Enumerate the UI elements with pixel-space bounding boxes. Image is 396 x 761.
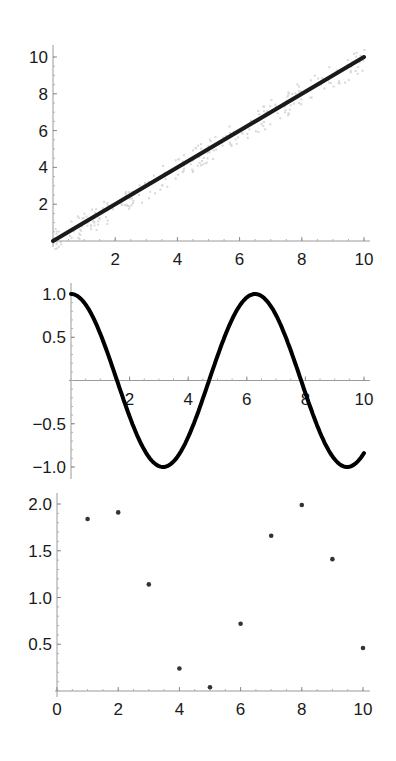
noise-speck (300, 103, 302, 105)
noise-speck (317, 78, 319, 80)
x-tick-label: 2 (113, 700, 122, 719)
noise-speck (300, 98, 302, 100)
noise-speck (165, 178, 167, 180)
noise-speck (262, 125, 264, 127)
noise-speck (86, 225, 88, 227)
noise-speck (175, 159, 177, 161)
noise-speck (290, 104, 292, 106)
noise-speck (199, 162, 201, 164)
noise-speck (183, 154, 185, 156)
x-tick-label: 10 (355, 250, 374, 269)
noise-speck (215, 149, 217, 151)
noise-speck (183, 168, 185, 170)
noise-speck (328, 82, 330, 84)
noise-speck (235, 138, 237, 140)
noise-speck (229, 142, 231, 144)
x-tick-label: 8 (297, 250, 306, 269)
noise-speck (255, 130, 257, 132)
noise-speck (237, 136, 239, 138)
noise-speck (291, 93, 293, 95)
x-tick-label: 4 (175, 700, 184, 719)
x-tick-label: 4 (173, 250, 182, 269)
noise-speck (93, 222, 95, 224)
noise-speck (132, 202, 134, 204)
data-point (361, 646, 366, 651)
noise-speck (94, 212, 96, 214)
noise-speck (70, 220, 72, 222)
noise-speck (270, 99, 272, 101)
series-line (53, 57, 364, 241)
noise-speck (106, 223, 108, 225)
data-point (147, 582, 152, 587)
y-tick-label: −1.0 (32, 458, 66, 477)
noise-speck (128, 208, 130, 210)
data-point (330, 557, 335, 562)
noise-speck (338, 80, 340, 82)
noise-speck (177, 174, 179, 176)
noise-speck (55, 233, 57, 235)
y-tick-label: 4 (39, 158, 48, 177)
noise-speck (197, 145, 199, 147)
noise-speck (195, 147, 197, 149)
noise-speck (241, 132, 243, 134)
noise-speck (293, 103, 295, 105)
noise-speck (97, 224, 99, 226)
noise-speck (355, 70, 357, 72)
noise-speck (86, 216, 88, 218)
noise-speck (277, 112, 279, 114)
noise-speck (356, 52, 358, 54)
noise-speck (69, 235, 71, 237)
noise-speck (71, 237, 73, 239)
noise-speck (204, 162, 206, 164)
noise-speck (287, 94, 289, 96)
noise-speck (154, 192, 156, 194)
noise-speck (247, 137, 249, 139)
noise-speck (248, 128, 250, 130)
noise-speck (323, 87, 325, 89)
noise-speck (77, 215, 79, 217)
noise-speck (56, 242, 58, 244)
noise-speck (347, 59, 349, 61)
noise-speck (124, 204, 126, 206)
noise-speck (78, 237, 80, 239)
noise-speck (210, 140, 212, 142)
y-tick-label: 0.5 (42, 328, 66, 347)
noise-speck (236, 143, 238, 145)
noise-speck (203, 157, 205, 159)
y-tick-label: 0.5 (28, 635, 52, 654)
noise-speck (262, 105, 264, 107)
noise-speck (287, 112, 289, 114)
noise-speck (192, 171, 194, 173)
data-point (238, 621, 243, 626)
noise-speck (321, 77, 323, 79)
data-point (300, 503, 305, 508)
noise-speck (289, 109, 291, 111)
noise-speck (264, 128, 266, 130)
data-point (85, 517, 90, 522)
noise-speck (183, 170, 185, 172)
noise-speck (328, 66, 330, 68)
noise-speck (207, 157, 209, 159)
noise-speck (83, 217, 85, 219)
noise-speck (287, 114, 289, 116)
y-tick-label: 8 (39, 85, 48, 104)
y-tick-label: 1.5 (28, 542, 52, 561)
noise-speck (263, 110, 265, 112)
noise-speck (58, 246, 60, 248)
noise-speck (314, 75, 316, 77)
noise-speck (261, 123, 263, 125)
noise-speck (190, 163, 192, 165)
noise-speck (94, 224, 96, 226)
noise-speck (202, 163, 204, 165)
noise-speck (339, 82, 341, 84)
noise-speck (269, 105, 271, 107)
noise-speck (279, 117, 281, 119)
noise-speck (257, 110, 259, 112)
y-tick-label: 2.0 (28, 495, 52, 514)
x-tick-label: 2 (110, 250, 119, 269)
noise-speck (148, 197, 150, 199)
noise-speck (298, 85, 300, 87)
noise-speck (60, 244, 62, 246)
noise-speck (56, 231, 58, 233)
noise-speck (357, 73, 359, 75)
